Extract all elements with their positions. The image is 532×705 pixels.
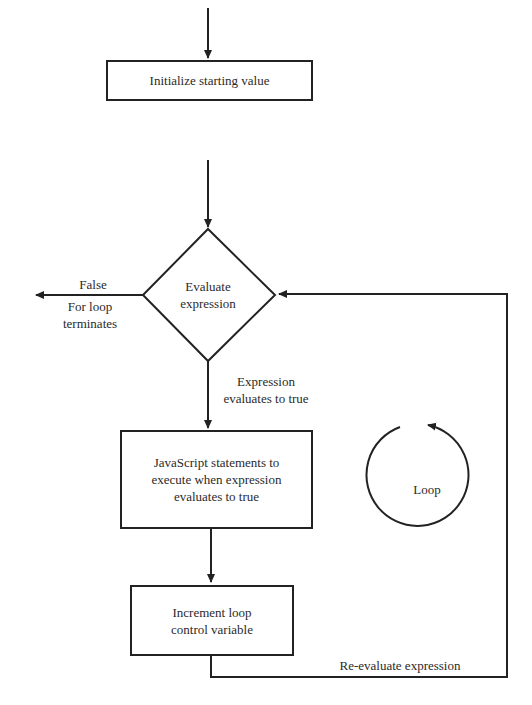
init-box: Initialize starting value [106,60,313,101]
statements-line1: JavaScript statements to [152,454,282,471]
terminate-label: For loop terminates [50,298,130,332]
terminate-line1: For loop [50,298,130,315]
init-label: Initialize starting value [150,72,270,89]
true-line1: Expression [212,373,320,390]
statements-box: JavaScript statements to execute when ex… [120,430,313,529]
loop-circle-arrow [366,425,468,526]
evaluate-label: Evaluate expression [168,278,248,312]
increment-box: Increment loop control variable [130,585,294,656]
false-label: False [68,276,118,293]
statements-line2: execute when expression [152,471,282,488]
increment-line2: control variable [171,621,253,638]
terminate-line2: terminates [50,315,130,332]
evaluate-line2: expression [168,295,248,312]
true-line2: evaluates to true [212,390,320,407]
evaluate-line1: Evaluate [168,278,248,295]
reevaluate-label: Re-evaluate expression [310,657,490,674]
statements-line3: evaluates to true [152,488,282,505]
true-branch-label: Expression evaluates to true [212,373,320,407]
loop-label: Loop [402,481,452,498]
increment-line1: Increment loop [171,604,253,621]
